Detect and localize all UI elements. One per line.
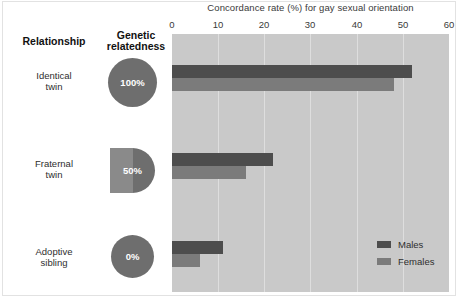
bar-fraternal-twin-females <box>172 166 246 179</box>
bar-identical-twin-females <box>172 78 394 91</box>
x-axis-tick-30: 30 <box>305 19 316 30</box>
chart-legend: Males Females <box>377 236 434 270</box>
legend-item-males: Males <box>377 236 434 253</box>
row-label-fraternal-twin-line1: Fraternal <box>8 158 100 169</box>
x-axis-tick-0: 0 <box>169 19 174 30</box>
legend-label-females: Females <box>398 256 434 267</box>
row-label-identical-twin-line2: twin <box>8 81 100 92</box>
x-axis-tick-60: 60 <box>444 19 455 30</box>
x-axis-tick-40: 40 <box>352 19 363 30</box>
row-label-fraternal-twin: Fraternal twin <box>8 158 100 180</box>
legend-item-females: Females <box>377 253 434 270</box>
row-label-fraternal-twin-line2: twin <box>8 169 100 180</box>
bar-adoptive-sibling-males <box>172 241 223 254</box>
row-label-adoptive-sibling-line2: sibling <box>8 257 100 268</box>
row-label-identical-twin-line1: Identical <box>8 70 100 81</box>
relatedness-circle-fraternal-twin: 50% <box>110 148 155 193</box>
concordance-rate-figure: Concordance rate (%) for gay sexual orie… <box>0 0 459 299</box>
row-label-identical-twin: Identical twin <box>8 70 100 92</box>
relatedness-value-identical-twin: 100% <box>120 77 144 88</box>
bar-fraternal-twin-males <box>172 153 273 166</box>
plot-area: Males Females <box>172 34 449 292</box>
legend-swatch-males-icon <box>377 241 391 248</box>
x-axis-tick-20: 20 <box>259 19 270 30</box>
column-header-relationship: Relationship <box>8 36 100 47</box>
legend-swatch-females-icon <box>377 258 391 265</box>
x-axis: 0 10 20 30 40 50 60 <box>172 19 449 33</box>
row-label-adoptive-sibling-line1: Adoptive <box>8 246 100 257</box>
column-header-genetic-line2: relatedness <box>101 41 171 52</box>
x-axis-tick-50: 50 <box>398 19 409 30</box>
column-header-genetic-relatedness: Genetic relatedness <box>101 30 171 52</box>
relatedness-circle-adoptive-sibling: 0% <box>111 235 154 278</box>
x-axis-tick-10: 10 <box>213 19 224 30</box>
row-label-adoptive-sibling: Adoptive sibling <box>8 246 100 268</box>
relatedness-value-adoptive-sibling: 0% <box>126 251 140 262</box>
relatedness-value-fraternal-twin: 50% <box>123 165 142 176</box>
bar-identical-twin-males <box>172 65 412 78</box>
legend-label-males: Males <box>398 239 423 250</box>
chart-title: Concordance rate (%) for gay sexual orie… <box>172 2 449 13</box>
bar-adoptive-sibling-females <box>172 254 200 267</box>
relatedness-circle-identical-twin: 100% <box>108 58 157 107</box>
